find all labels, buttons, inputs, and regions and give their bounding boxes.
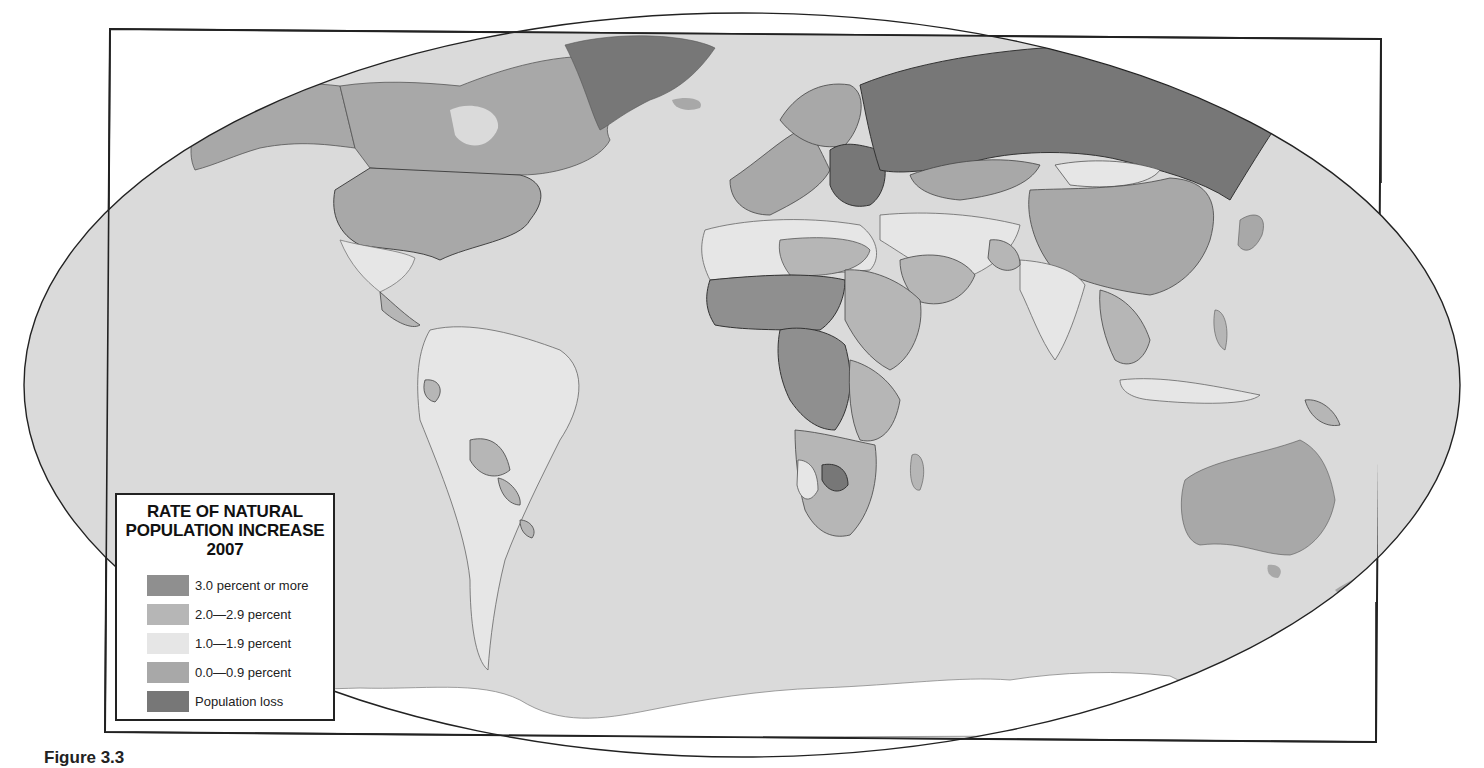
figure-caption: Figure 3.3 — [44, 748, 124, 768]
legend-item-loss: Population loss — [147, 687, 333, 716]
legend-title-line3: 2007 — [117, 540, 333, 559]
legend-swatch — [147, 633, 189, 654]
map-legend: RATE OF NATURAL POPULATION INCREASE 2007… — [115, 493, 335, 721]
legend-swatch — [147, 604, 189, 625]
legend-item-1-1.9: 1.0—1.9 percent — [147, 629, 333, 658]
legend-swatch — [147, 662, 189, 683]
legend-title-line1: RATE OF NATURAL — [117, 502, 333, 521]
legend-item-3-plus: 3.0 percent or more — [147, 571, 333, 600]
sahel — [707, 275, 845, 330]
legend-label: Population loss — [195, 694, 283, 709]
legend-title-line2: POPULATION INCREASE — [117, 521, 333, 540]
legend-label: 3.0 percent or more — [195, 578, 308, 593]
legend-swatch — [147, 691, 189, 712]
legend-item-0-0.9: 0.0—0.9 percent — [147, 658, 333, 687]
legend-label: 2.0—2.9 percent — [195, 607, 291, 622]
legend-label: 0.0—0.9 percent — [195, 665, 291, 680]
legend-title: RATE OF NATURAL POPULATION INCREASE 2007 — [117, 502, 333, 559]
legend-label: 1.0—1.9 percent — [195, 636, 291, 651]
legend-item-2-2.9: 2.0—2.9 percent — [147, 600, 333, 629]
legend-items: 3.0 percent or more 2.0—2.9 percent 1.0—… — [147, 571, 333, 716]
legend-swatch — [147, 575, 189, 596]
